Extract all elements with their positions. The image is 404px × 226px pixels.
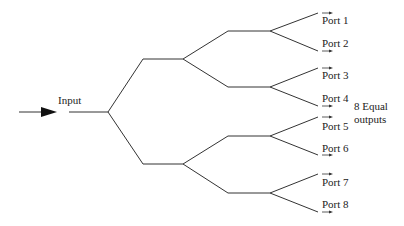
branch-l2-4 — [183, 164, 270, 193]
splitter-tree-diagram: Input Port 1 Port 2 Port 3 Port 4 Port 5… — [0, 0, 404, 226]
branch-port-3 — [270, 68, 318, 87]
branch-port-7 — [270, 174, 318, 193]
outputs-label-line1: 8 Equal — [354, 100, 388, 112]
branch-l1-upper — [108, 59, 183, 112]
port-label-8: Port 8 — [322, 198, 349, 210]
port-label-3: Port 3 — [322, 69, 349, 81]
port-arrow-icon — [322, 115, 333, 118]
input-label: Input — [58, 94, 81, 106]
branch-port-2 — [270, 31, 318, 51]
port-label-7: Port 7 — [322, 176, 349, 188]
branch-l2-3 — [183, 136, 270, 164]
port-arrow-icon — [322, 104, 333, 107]
port-label-5: Port 5 — [322, 120, 349, 132]
port-label-4: Port 4 — [322, 92, 349, 104]
port-arrow-icon — [322, 49, 333, 52]
port-label-6: Port 6 — [322, 142, 349, 154]
branch-port-1 — [270, 13, 318, 31]
branch-port-5 — [270, 117, 318, 136]
branch-port-6 — [270, 136, 318, 155]
branch-l1-lower — [108, 112, 183, 164]
outputs-label-line2: outputs — [354, 113, 386, 125]
port-arrow-icon — [322, 210, 333, 213]
input-arrow-head — [41, 107, 57, 117]
branch-l2-1 — [183, 31, 270, 59]
branch-port-8 — [270, 193, 318, 212]
port-label-2: Port 2 — [322, 37, 349, 49]
port-label-1: Port 1 — [322, 14, 349, 26]
branch-port-4 — [270, 87, 318, 106]
branch-l2-2 — [183, 59, 270, 87]
